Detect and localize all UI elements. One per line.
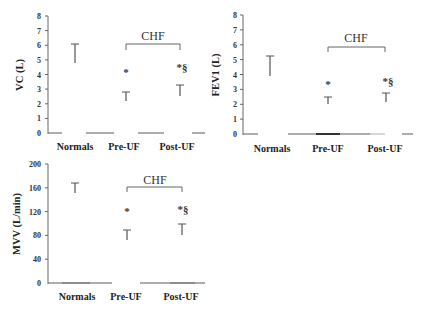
category-label-pre-uf: Pre-UF bbox=[312, 143, 343, 154]
chf-label: CHF bbox=[143, 173, 167, 187]
y-axis-label: VC (L) bbox=[14, 59, 26, 91]
y-axis-label: MVV (L/min) bbox=[11, 193, 23, 255]
y-tick-label: 4 bbox=[37, 71, 41, 80]
figure: 8 7 6 5 4 3 2 1 0 VC (L) * *§ CHF Normal… bbox=[0, 0, 423, 314]
y-tick-label: 40 bbox=[33, 255, 41, 264]
y-tick-label: 1 bbox=[37, 114, 41, 123]
y-tick-label: 3 bbox=[37, 85, 41, 94]
error-bar-post-uf bbox=[176, 85, 184, 96]
category-label-post-uf: Post-UF bbox=[160, 141, 195, 152]
y-tick-label: 7 bbox=[37, 27, 41, 36]
error-bar-pre-uf bbox=[122, 92, 130, 101]
significance-marker-pre-uf: * bbox=[123, 66, 129, 78]
y-tick-label: 0 bbox=[233, 130, 237, 139]
significance-marker-pre-uf: * bbox=[325, 78, 331, 90]
y-tick-label: 160 bbox=[29, 184, 41, 193]
error-bar-post-uf bbox=[178, 224, 186, 235]
y-tick-label: 5 bbox=[37, 56, 41, 65]
y-tick-label: 6 bbox=[233, 41, 237, 50]
chf-label: CHF bbox=[141, 29, 165, 43]
significance-marker-post-uf: *§ bbox=[383, 75, 394, 87]
error-bar-post-uf bbox=[382, 93, 390, 102]
chf-bracket bbox=[126, 44, 180, 50]
category-label-normals: Normals bbox=[59, 291, 96, 302]
y-ticks: 8 7 6 5 4 3 2 1 0 bbox=[233, 11, 243, 139]
y-tick-label: 200 bbox=[29, 160, 41, 169]
category-label-pre-uf: Pre-UF bbox=[110, 291, 141, 302]
y-tick-label: 120 bbox=[29, 208, 41, 217]
y-tick-label: 8 bbox=[233, 11, 237, 20]
category-label-normals: Normals bbox=[254, 143, 291, 154]
y-tick-label: 4 bbox=[233, 71, 237, 80]
panel-mvv: 200 160 120 80 40 0 MVV (L/min) * *§ CHF… bbox=[11, 160, 205, 302]
y-tick-label: 3 bbox=[233, 85, 237, 94]
y-tick-label: 7 bbox=[233, 26, 237, 35]
panel-fev1: 8 7 6 5 4 3 2 1 0 FEV1 (L) * *§ CHF Norm… bbox=[210, 11, 413, 154]
y-tick-label: 8 bbox=[37, 12, 41, 21]
category-label-post-uf: Post-UF bbox=[164, 291, 199, 302]
category-label-pre-uf: Pre-UF bbox=[108, 141, 139, 152]
y-ticks: 200 160 120 80 40 0 bbox=[29, 160, 48, 288]
y-tick-label: 2 bbox=[37, 100, 41, 109]
error-bar-pre-uf bbox=[123, 230, 131, 240]
y-tick-label: 0 bbox=[37, 279, 41, 288]
panel-vc: 8 7 6 5 4 3 2 1 0 VC (L) * *§ CHF Normal… bbox=[14, 12, 205, 152]
significance-marker-pre-uf: * bbox=[124, 205, 130, 217]
y-axis-label: FEV1 (L) bbox=[210, 53, 222, 96]
error-bar-normals bbox=[71, 44, 79, 63]
y-tick-label: 2 bbox=[233, 100, 237, 109]
chf-bracket bbox=[328, 47, 385, 52]
significance-marker-post-uf: *§ bbox=[177, 61, 188, 73]
error-bar-pre-uf bbox=[324, 97, 332, 104]
y-ticks: 8 7 6 5 4 3 2 1 0 bbox=[37, 12, 48, 138]
error-bar-normals bbox=[266, 56, 274, 76]
significance-marker-post-uf: *§ bbox=[178, 203, 189, 215]
y-tick-label: 5 bbox=[233, 56, 237, 65]
y-tick-label: 1 bbox=[233, 115, 237, 124]
category-label-post-uf: Post-UF bbox=[368, 143, 403, 154]
chf-bracket bbox=[127, 187, 182, 192]
y-tick-label: 80 bbox=[33, 231, 41, 240]
y-tick-label: 6 bbox=[37, 41, 41, 50]
category-label-normals: Normals bbox=[57, 141, 94, 152]
chf-label: CHF bbox=[344, 31, 368, 45]
error-bar-normals bbox=[71, 183, 79, 193]
y-tick-label: 0 bbox=[37, 129, 41, 138]
